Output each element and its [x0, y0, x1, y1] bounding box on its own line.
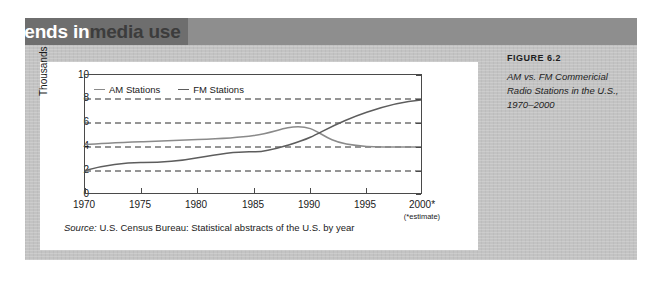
- figure-caption: FIGURE 6.2 AM vs. FM Commericial Radio S…: [507, 53, 629, 111]
- legend-label-fm: FM Stations: [193, 84, 244, 95]
- figure-page: trends inmedia use Thousands 10 8 6 4 2 …: [0, 0, 666, 288]
- x-tick-label-1985: 1985: [235, 200, 271, 210]
- chart-source-text: U.S. Census Bureau: Statistical abstract…: [97, 222, 355, 233]
- x-tick-label-1995: 1995: [347, 200, 383, 210]
- x-tick-label-1980: 1980: [178, 200, 214, 210]
- x-axis-estimate-note: (*estimate): [400, 212, 444, 221]
- y-tick-8: [416, 99, 421, 100]
- x-tick-1985: [254, 188, 255, 194]
- chart-source-label: Source:: [64, 222, 97, 233]
- x-tick-label-1990: 1990: [291, 200, 327, 210]
- chart-legend: AM Stations FM Stations: [94, 84, 244, 95]
- x-tick-label-2000: 2000*: [402, 200, 442, 210]
- x-tick-1995: [366, 188, 367, 194]
- x-tick-1975: [141, 188, 142, 194]
- x-tick-1980: [197, 188, 198, 194]
- figure-number: FIGURE 6.2: [507, 53, 629, 63]
- y-axis-title: Thousands: [38, 47, 49, 96]
- series-line-am: [85, 127, 421, 147]
- x-tick-1970: [85, 188, 86, 194]
- figure-caption-line-1: AM vs. FM Commericial: [507, 71, 608, 82]
- figure-caption-line-3: 1970–2000: [507, 99, 555, 110]
- legend-label-am: AM Stations: [109, 84, 160, 95]
- x-tick-label-1970: 1970: [66, 200, 102, 210]
- x-tick-2000: [421, 188, 422, 194]
- legend-swatch-am-icon: [94, 89, 105, 90]
- figure-caption-text: AM vs. FM Commericial Radio Stations in …: [507, 70, 629, 111]
- y-tick-10: [416, 75, 421, 76]
- y-tick-2: [416, 171, 421, 172]
- x-tick-1990: [310, 188, 311, 194]
- y-tick-4: [416, 147, 421, 148]
- x-tick-label-1975: 1975: [122, 200, 158, 210]
- banner-title-secondary: media use: [89, 18, 180, 45]
- legend-item-fm: FM Stations: [178, 84, 244, 95]
- banner-title-primary: trends in: [11, 18, 89, 45]
- legend-item-am: AM Stations: [94, 84, 160, 95]
- legend-swatch-fm-icon: [178, 89, 189, 90]
- banner-title: trends inmedia use: [11, 18, 181, 45]
- y-tick-6: [416, 123, 421, 124]
- chart-card: Thousands 10 8 6 4 2 0: [40, 62, 478, 250]
- chart-source: Source: U.S. Census Bureau: Statistical …: [64, 222, 354, 233]
- y-tick-0: [416, 194, 421, 195]
- figure-caption-line-2: Radio Stations in the U.S.,: [507, 85, 618, 96]
